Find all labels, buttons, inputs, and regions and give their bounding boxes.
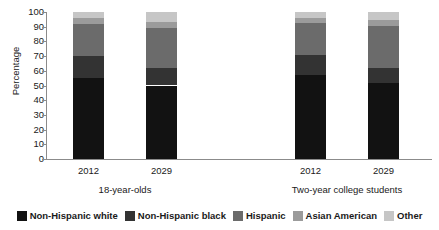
bar-segment[interactable] [295, 18, 326, 23]
legend-swatch-icon [17, 211, 27, 221]
bar-segment[interactable] [146, 86, 177, 160]
bar-segment[interactable] [295, 55, 326, 75]
stacked-bar[interactable] [368, 12, 399, 159]
stacked-bar[interactable] [73, 12, 104, 159]
bar-segment[interactable] [368, 68, 399, 83]
x-axis-group-label: 18-year-olds [35, 184, 215, 195]
legend-item[interactable]: Hispanic [233, 211, 286, 221]
legend-item[interactable]: Non-Hispanic black [125, 211, 226, 221]
y-axis-tick-label: 40 [0, 95, 44, 105]
legend-item-label: Hispanic [246, 211, 286, 221]
y-axis-tick-label: 60 [0, 66, 44, 76]
bar-segment[interactable] [146, 12, 177, 22]
bar-segment[interactable] [73, 24, 104, 56]
bar-segment[interactable] [146, 28, 177, 68]
bar-segment[interactable] [368, 12, 399, 20]
plot-area [46, 12, 423, 159]
legend-item-label: Asian American [306, 211, 377, 221]
x-axis-tick-label: 2029 [354, 165, 414, 176]
y-axis-tick-label: 10 [0, 139, 44, 149]
legend-swatch-icon [384, 211, 394, 221]
y-axis-tick-label: 80 [0, 36, 44, 46]
y-axis-tick-label: 100 [0, 7, 44, 17]
bar-segment[interactable] [73, 18, 104, 25]
bar-segment[interactable] [146, 68, 177, 86]
stacked-bar-chart: Percentage 1009080706050403020100 201220… [0, 0, 439, 230]
chart-legend: Non-Hispanic whiteNon-Hispanic blackHisp… [0, 208, 439, 224]
bar-segment[interactable] [295, 75, 326, 159]
legend-swatch-icon [293, 211, 303, 221]
bar-segment[interactable] [368, 83, 399, 159]
bar-segment[interactable] [368, 26, 399, 68]
legend-swatch-icon [233, 211, 243, 221]
stacked-bar[interactable] [295, 12, 326, 159]
bar-segment[interactable] [146, 22, 177, 29]
legend-item[interactable]: Other [384, 211, 422, 221]
y-axis-tick-label: 50 [0, 81, 44, 91]
y-axis-tick-label: 20 [0, 125, 44, 135]
legend-swatch-icon [125, 211, 135, 221]
x-axis-line [46, 159, 432, 160]
legend-item[interactable]: Non-Hispanic white [17, 211, 118, 221]
legend-item[interactable]: Asian American [293, 211, 377, 221]
bar-segment[interactable] [295, 23, 326, 55]
bar-segment[interactable] [368, 20, 399, 26]
y-axis-tick-label: 0 [0, 154, 44, 164]
y-axis-tick-label: 70 [0, 51, 44, 61]
x-axis-group-label: Two-year college students [257, 184, 437, 195]
legend-item-label: Non-Hispanic white [30, 211, 118, 221]
x-axis-tick-label: 2012 [59, 165, 119, 176]
x-axis-tick-label: 2029 [132, 165, 192, 176]
legend-item-label: Other [397, 211, 422, 221]
bar-segment[interactable] [73, 56, 104, 78]
x-axis-tick-label: 2012 [281, 165, 341, 176]
y-axis-tick-label: 30 [0, 110, 44, 120]
y-axis-tick-label: 90 [0, 22, 44, 32]
stacked-bar[interactable] [146, 12, 177, 159]
legend-item-label: Non-Hispanic black [138, 211, 226, 221]
y-axis-tick-mark [42, 159, 46, 160]
bar-segment[interactable] [73, 78, 104, 159]
bar-segment[interactable] [295, 12, 326, 18]
bar-segment[interactable] [73, 12, 104, 18]
